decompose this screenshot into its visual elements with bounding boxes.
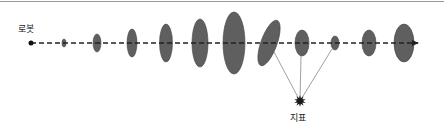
robot-localization-diagram xyxy=(0,0,444,133)
landmark-star-icon xyxy=(294,95,305,107)
sight-lines xyxy=(274,49,332,101)
sight-line-1 xyxy=(274,52,300,101)
robot-label: 로봇 xyxy=(18,22,34,35)
sight-line-2 xyxy=(300,56,301,101)
sight-line-3 xyxy=(300,49,332,101)
robot-position-dot-icon xyxy=(29,41,34,46)
landmark-label: 지표 xyxy=(290,111,306,124)
